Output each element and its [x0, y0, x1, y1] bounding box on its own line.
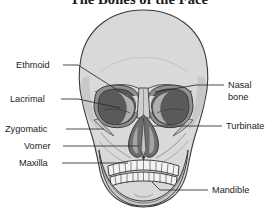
label-nasal-bone-line1: Nasal [228, 80, 252, 91]
label-mandible: Mandible [212, 185, 249, 196]
label-turbinate: Turbinate [226, 121, 264, 132]
label-nasal-bone-line2: bone [228, 92, 248, 103]
label-lacrimal: Lacrimal [10, 94, 45, 105]
label-zygomatic: Zygomatic [5, 124, 47, 135]
label-maxilla: Maxilla [19, 158, 48, 169]
label-vomer: Vomer [24, 141, 51, 152]
label-ethmoid: Ethmoid [16, 60, 50, 71]
anatomical-figure: The Bones of the Face [0, 0, 278, 221]
